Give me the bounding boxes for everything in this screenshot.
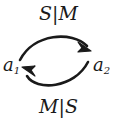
- node-label-a1: a1: [3, 56, 20, 74]
- edge-label-top: S|M: [0, 2, 117, 24]
- node-a1-base: a: [3, 54, 14, 75]
- node-a2-subscript: 2: [104, 65, 110, 76]
- edge-bottom-arc: [27, 62, 88, 85]
- node-label-a2: a2: [93, 56, 110, 74]
- node-a2-base: a: [93, 54, 104, 75]
- edge-label-bottom: M|S: [0, 95, 117, 117]
- edge-top-arc: [20, 37, 87, 60]
- state-transition-diagram: S|M M|S a1 a2: [0, 0, 117, 121]
- node-a1-subscript: 1: [14, 65, 20, 76]
- edge-bottom-arrowhead-icon: [22, 66, 35, 76]
